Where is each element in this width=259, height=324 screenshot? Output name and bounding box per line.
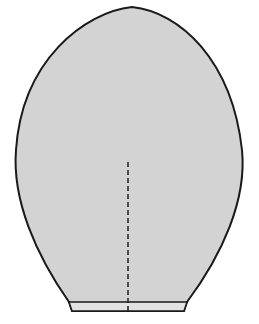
pattern-diagram (0, 0, 259, 324)
pattern-piece-body (16, 7, 243, 311)
pattern-piece-svg (0, 0, 259, 324)
